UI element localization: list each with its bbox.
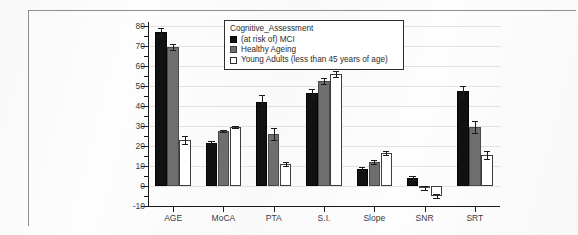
bar — [179, 140, 191, 186]
y-axis-label: 10 — [111, 162, 145, 171]
bar — [481, 155, 493, 186]
error-bar-cap — [208, 145, 214, 146]
bar — [167, 47, 179, 186]
error-bar-cap — [232, 128, 238, 129]
x-axis-tick — [324, 206, 325, 212]
y-axis-minor-tick — [144, 36, 148, 37]
error-bar-cap — [484, 159, 490, 160]
y-axis-label: 70 — [111, 42, 145, 51]
bar — [268, 134, 280, 186]
y-axis-minor-tick — [144, 156, 148, 157]
error-bar — [185, 136, 186, 145]
legend-item: Healthy Ageing — [230, 45, 398, 55]
error-bar-cap — [359, 171, 365, 172]
error-bar-cap — [472, 121, 478, 122]
error-bar-cap — [359, 167, 365, 168]
x-axis-tick — [425, 206, 426, 212]
bar — [256, 102, 268, 186]
y-axis-label: -10 — [111, 202, 145, 211]
error-bar-cap — [170, 50, 176, 51]
x-axis-category-label: SRT — [445, 214, 505, 223]
filled-gray-square-icon — [230, 46, 237, 53]
error-bar-cap — [460, 86, 466, 87]
bar — [381, 153, 393, 186]
error-bar-cap — [383, 151, 389, 152]
legend-item-label: Young Adults (less than 45 years of age) — [241, 55, 388, 65]
empty-white-square-icon — [230, 57, 237, 64]
error-bar-cap — [232, 126, 238, 127]
error-bar-cap — [333, 71, 339, 72]
x-axis-tick — [223, 206, 224, 212]
error-bar-cap — [409, 176, 415, 177]
figure-canvas: 80706050403020100-10 AGEMoCAPTAS.I.Slope… — [0, 0, 578, 235]
bar — [369, 162, 381, 186]
error-bar-cap — [433, 194, 439, 195]
bar — [206, 143, 218, 186]
bar — [330, 74, 342, 186]
error-bar-cap — [371, 160, 377, 161]
error-bar-cap — [409, 180, 415, 181]
y-axis-line — [148, 22, 149, 206]
y-axis-minor-tick — [144, 116, 148, 117]
x-axis-tick — [374, 206, 375, 212]
error-bar-cap — [283, 162, 289, 163]
error-bar — [463, 86, 464, 96]
error-bar-cap — [271, 128, 277, 129]
y-axis-label: 30 — [111, 122, 145, 131]
error-bar-cap — [182, 144, 188, 145]
bar — [155, 32, 167, 186]
error-bar-cap — [383, 155, 389, 156]
error-bar-cap — [321, 78, 327, 79]
x-axis-tick — [475, 206, 476, 212]
y-axis-label: 80 — [111, 22, 145, 31]
error-bar-cap — [259, 109, 265, 110]
gridline — [149, 186, 501, 187]
y-axis-label: 40 — [111, 102, 145, 111]
bar — [469, 127, 481, 186]
error-bar-cap — [182, 136, 188, 137]
x-axis-tick — [173, 206, 174, 212]
error-bar-cap — [220, 132, 226, 133]
error-bar — [161, 28, 162, 36]
error-bar — [487, 151, 488, 158]
bar — [218, 131, 230, 186]
error-bar-cap — [333, 77, 339, 78]
bar — [318, 81, 330, 186]
legend-item-label: Healthy Ageing — [241, 45, 296, 55]
y-axis-label: 50 — [111, 82, 145, 91]
y-axis-minor-tick — [144, 196, 148, 197]
error-bar-cap — [158, 36, 164, 37]
error-bar — [475, 121, 476, 133]
error-bar-cap — [309, 97, 315, 98]
y-axis-minor-tick — [144, 136, 148, 137]
y-axis-label: 20 — [111, 142, 145, 151]
error-bar-cap — [421, 190, 427, 191]
error-bar-cap — [309, 89, 315, 90]
bar — [230, 127, 242, 186]
error-bar-cap — [259, 95, 265, 96]
error-bar-cap — [208, 141, 214, 142]
error-bar — [262, 95, 263, 109]
y-axis-minor-tick — [144, 176, 148, 177]
legend-item-label: (at risk of) MCI — [241, 35, 295, 45]
legend-items: (at risk of) MCIHealthy AgeingYoung Adul… — [230, 35, 398, 65]
error-bar-cap — [220, 130, 226, 131]
error-bar-cap — [371, 164, 377, 165]
x-axis-tick — [274, 206, 275, 212]
y-axis-minor-tick — [144, 96, 148, 97]
legend-title: Cognitive_Assessment — [230, 24, 398, 33]
y-axis-minor-tick — [144, 76, 148, 77]
error-bar-cap — [460, 96, 466, 97]
y-axis-label: 0 — [111, 182, 145, 191]
bar — [306, 93, 318, 186]
error-bar — [274, 128, 275, 140]
error-bar — [312, 89, 313, 97]
error-bar-cap — [421, 186, 427, 187]
error-bar-cap — [170, 44, 176, 45]
error-bar-cap — [321, 84, 327, 85]
legend-item: (at risk of) MCI — [230, 35, 398, 45]
y-axis-label: 60 — [111, 62, 145, 71]
bar — [457, 91, 469, 186]
error-bar-cap — [433, 198, 439, 199]
error-bar-cap — [158, 28, 164, 29]
